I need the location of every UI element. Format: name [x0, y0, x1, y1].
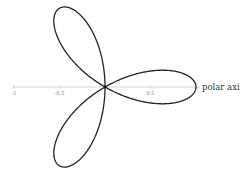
- tick-label: -0.5: [55, 90, 65, 96]
- tick-label: 0.5: [147, 90, 155, 96]
- polar-axis-label: polar axis: [202, 82, 240, 92]
- tick-label: -1: [12, 90, 17, 96]
- polar-rose-diagram: -1-0.50.5 polar axis: [0, 0, 240, 173]
- origin-point: [104, 86, 107, 89]
